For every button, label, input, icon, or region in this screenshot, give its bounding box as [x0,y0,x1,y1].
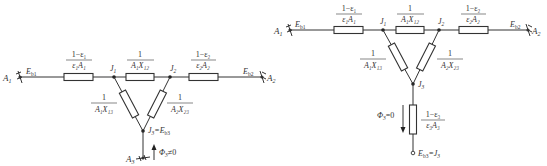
left-r2-den: ε₂A₂ [196,61,210,70]
left-label-a3: A3 [125,154,135,165]
right-terminal-eb3 [411,151,415,155]
left-r12-den: A₁X₁₂ [130,61,149,70]
right-r23-num: 1 [448,49,452,58]
right-resistor-r12 [396,27,424,34]
left-label-eb1: Eb1 [25,67,37,77]
right-label-eb3: Eb3=J3 [417,149,440,159]
right-r3-num: 1−ε₃ [426,110,441,119]
right-label-eb2: Eb2 [509,20,521,30]
left-network-diagram: A1 Eb1 1−ε₁ ε₁A₁ J1 1 A₁X₁₂ J2 1−ε₂ ε₂A₂… [2,50,276,165]
left-resistor-r2 [189,74,218,81]
right-label-j3: J3 [418,80,425,90]
right-a1-surface-icon [286,24,292,36]
right-resistor-r2 [459,27,488,34]
right-resistor-r13 [388,43,407,71]
left-r23-num: 1 [178,93,182,102]
right-label-a1: A1 [273,26,283,37]
left-resistor-r12 [126,74,154,81]
right-r13-num: 1 [371,49,375,58]
left-a1-surface-icon [16,71,22,83]
left-label-j3: J3=Eb3 [148,126,170,136]
right-label-eb1: Eb1 [294,20,306,30]
right-r13-den: A₁X₁₃ [363,61,382,70]
left-label-j1: J1 [110,64,117,74]
right-r1-den: ε₁A₁ [342,15,356,24]
left-resistor-r23 [148,90,167,118]
left-r1-den: ε₁A₁ [72,61,86,70]
right-label-a2: A2 [531,26,541,37]
right-resistor-r1 [334,27,363,34]
left-r13-num: 1 [102,93,106,102]
right-r2-num: 1−ε₂ [466,4,481,13]
left-r23-den: A₂X₂₃ [170,105,189,114]
left-r12-num: 1 [138,50,142,59]
left-r13-den: A₁X₁₃ [94,105,113,114]
left-r2-num: 1−ε₂ [196,50,211,59]
right-r1-num: 1−ε₁ [342,4,357,13]
right-label-j1: J1 [380,17,387,27]
left-label-eb2: Eb2 [242,67,254,77]
left-label-phi: Φ3≠0 [159,148,176,158]
left-label-a1: A1 [2,73,12,84]
left-a2-surface-icon [260,71,266,83]
right-r12-num: 1 [408,4,412,13]
left-resistor-r1 [64,74,93,81]
left-label-j2: J2 [170,64,177,74]
right-r3-den: ε₃A₃ [426,121,440,130]
left-resistor-r13 [119,90,138,118]
right-resistor-r23 [417,43,436,71]
right-network-diagram: A1 Eb1 1−ε₁ ε₁A₁ J1 1 A₁X₁₂ J2 1−ε₂ ε₂A₂… [273,4,541,159]
right-resistor-r3 [410,105,417,134]
left-r1-num: 1−ε₁ [72,50,87,59]
right-label-phi: Φ3=0 [377,111,394,121]
right-r12-den: A₁X₁₂ [400,15,419,24]
right-label-j2: J2 [438,17,445,27]
right-r23-den: A₂X₂₃ [440,61,459,70]
left-label-a2: A2 [266,73,276,84]
right-r2-den: ε₂A₂ [466,15,480,24]
